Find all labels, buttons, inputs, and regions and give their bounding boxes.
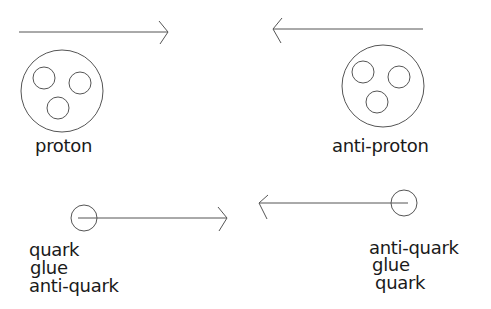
proton-direction-arrow xyxy=(19,21,168,44)
proton-label: proton xyxy=(35,137,92,155)
antiproton-direction-arrow xyxy=(273,18,423,43)
right-parton-label-3: quark xyxy=(375,274,425,292)
antiproton-label: anti-proton xyxy=(332,137,429,155)
quark-circle-3 xyxy=(47,97,69,119)
left-parton xyxy=(71,205,227,231)
left-parton-label-3: anti-quark xyxy=(29,277,119,295)
quark-circle-2 xyxy=(69,72,91,94)
antiquark-circle-1 xyxy=(352,61,374,83)
antiquark-circle-3 xyxy=(366,91,388,113)
antiproton-circle xyxy=(342,45,424,127)
proton-circle xyxy=(21,50,103,132)
quark-circle-1 xyxy=(33,67,55,89)
antiquark-circle-2 xyxy=(388,66,410,88)
right-parton xyxy=(259,190,417,219)
